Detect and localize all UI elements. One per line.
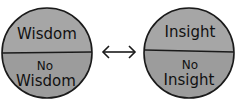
right-bottom-label-line2: Insight	[164, 71, 215, 89]
left-top-label: Wisdom	[17, 25, 77, 43]
right-top-label: Insight	[165, 23, 216, 41]
right-bottom-label-line1: No	[182, 58, 198, 72]
left-bottom-label-line1: No	[37, 59, 53, 73]
right-circle: Insight No Insight	[140, 0, 237, 109]
left-circle: Wisdom No Wisdom	[0, 0, 100, 109]
wisdom-insight-diagram: Wisdom No Wisdom Insight No Insight	[0, 0, 237, 109]
double-arrow-icon	[103, 46, 135, 58]
left-circle-divider	[2, 52, 92, 53]
left-bottom-label-line2: Wisdom	[16, 72, 76, 90]
